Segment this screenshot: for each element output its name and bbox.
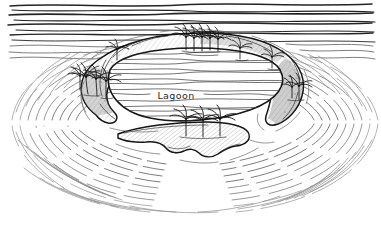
- atoll-illustration: Lagoon: [0, 0, 381, 241]
- lagoon-label: Lagoon: [157, 90, 194, 101]
- atoll-drawing-canvas: Lagoon: [0, 0, 381, 241]
